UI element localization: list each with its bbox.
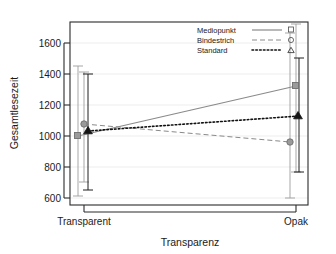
legend-label-mediopunkt: Mediopunkt [197, 26, 237, 35]
datapoint-mediopunkt-transparent [75, 133, 81, 139]
datapoint-bindestrich-transparent [81, 121, 87, 127]
legend-label-standard: Standard [197, 46, 227, 55]
datapoint-bindestrich-opak [287, 139, 293, 145]
y-axis-title: Gesamtlesezeit [8, 77, 20, 149]
x-tick-label-transparent: Transparent [57, 216, 111, 227]
chart-canvas: 1600 1400 1200 1000 800 600 Gesamtleseze… [0, 0, 336, 254]
y-tick-label-600: 600 [44, 193, 61, 204]
y-tick-label-1400: 1400 [39, 69, 62, 80]
chart-figure: 1600 1400 1200 1000 800 600 Gesamtleseze… [0, 0, 336, 254]
x-tick-label-opak: Opak [284, 216, 309, 227]
y-tick-label-1200: 1200 [39, 100, 62, 111]
y-tick-label-1600: 1600 [39, 38, 62, 49]
y-tick-label-1000: 1000 [39, 131, 62, 142]
y-tick-label-800: 800 [44, 162, 61, 173]
x-axis-title: Transparenz [161, 236, 220, 248]
datapoint-mediopunkt-opak [293, 83, 299, 89]
legend-label-bindestrich: Bindestrich [197, 36, 234, 45]
